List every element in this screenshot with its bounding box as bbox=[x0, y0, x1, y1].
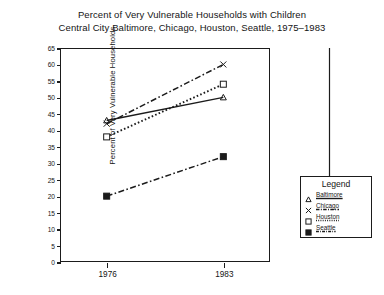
y-tick-label: 15 bbox=[48, 209, 55, 219]
series-baltimore bbox=[104, 94, 227, 123]
y-tick-label: 25 bbox=[48, 176, 55, 186]
legend-item-baltimore[interactable]: Baltimore bbox=[301, 189, 371, 200]
y-tick-label: 35 bbox=[48, 143, 55, 153]
y-tick-label: 5 bbox=[51, 242, 55, 252]
data-point-filled-square bbox=[104, 193, 110, 199]
y-tick-label: 40 bbox=[48, 126, 55, 136]
data-point-filled-square bbox=[220, 154, 226, 160]
x-tick-mark bbox=[107, 263, 108, 268]
series-line bbox=[107, 157, 224, 197]
y-tick-label: 65 bbox=[48, 44, 55, 54]
legend-item-label: Houston bbox=[316, 213, 339, 221]
data-point-cross bbox=[220, 61, 226, 67]
y-tick-label: 50 bbox=[48, 93, 55, 103]
legend-title: Legend bbox=[301, 179, 371, 189]
y-tick-label: 45 bbox=[48, 110, 55, 120]
data-point-square bbox=[220, 81, 226, 87]
series-line bbox=[107, 97, 224, 120]
legend-line-sample bbox=[316, 230, 336, 233]
y-tick-label: 0 bbox=[51, 258, 55, 268]
x-tick-mark bbox=[224, 263, 225, 268]
legend-line-sample bbox=[316, 208, 339, 211]
legend-item-seattle[interactable]: Seattle bbox=[301, 222, 371, 233]
y-tick-label: 30 bbox=[48, 159, 55, 169]
y-tick-mark bbox=[57, 262, 61, 263]
legend-item-houston[interactable]: Houston bbox=[301, 211, 371, 222]
filled-square-icon bbox=[304, 223, 313, 232]
series-line bbox=[107, 64, 224, 123]
data-point-cross bbox=[104, 121, 110, 127]
cross-icon bbox=[304, 201, 313, 210]
x-tick-label: 1983 bbox=[202, 270, 246, 279]
x-tick-label: 1976 bbox=[86, 270, 130, 279]
chart-canvas: Percent of Very Vulnerable Households wi… bbox=[0, 0, 384, 295]
chart-subtitle: Central City Baltimore, Chicago, Houston… bbox=[0, 21, 384, 34]
legend-line-sample bbox=[316, 197, 343, 200]
y-tick-label: 20 bbox=[48, 192, 55, 202]
chart-title-block: Percent of Very Vulnerable Households wi… bbox=[0, 8, 384, 34]
y-tick-label: 10 bbox=[48, 225, 55, 235]
data-point-square bbox=[104, 134, 110, 140]
data-point-filled-square bbox=[306, 230, 311, 235]
legend-item-chicago[interactable]: Chicago bbox=[301, 200, 371, 211]
series-houston bbox=[104, 81, 227, 140]
data-series-layer bbox=[60, 48, 270, 262]
y-tick-label: 60 bbox=[48, 60, 55, 70]
chart-title: Percent of Very Vulnerable Households wi… bbox=[0, 8, 384, 21]
legend-item-label: Baltimore bbox=[316, 191, 343, 199]
legend: Legend BaltimoreChicagoHoustonSeattle bbox=[300, 176, 372, 238]
series-seattle bbox=[104, 154, 227, 200]
y-tick-label: 55 bbox=[48, 77, 55, 87]
legend-entries: BaltimoreChicagoHoustonSeattle bbox=[301, 189, 371, 233]
legend-item-label: Seattle bbox=[316, 224, 336, 232]
legend-line-sample bbox=[316, 219, 339, 222]
legend-item-label: Chicago bbox=[316, 202, 339, 210]
series-line bbox=[107, 84, 224, 137]
square-icon bbox=[304, 212, 313, 221]
triangle-icon bbox=[304, 190, 313, 199]
